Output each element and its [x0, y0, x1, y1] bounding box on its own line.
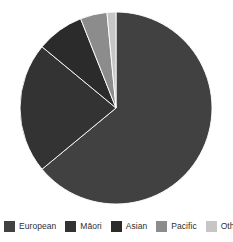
legend-item-label: Other — [221, 221, 233, 232]
legend-item-asian[interactable]: Asian — [111, 221, 148, 232]
legend-swatch-icon — [65, 221, 76, 232]
legend-item-mori[interactable]: Māori — [65, 221, 102, 232]
pie-chart-svg — [0, 0, 233, 210]
legend-swatch-icon — [111, 221, 122, 232]
legend-item-label: European — [19, 221, 56, 232]
legend-swatch-icon — [206, 221, 217, 232]
pie-slice-group — [20, 12, 212, 204]
legend-item-other[interactable]: Other — [206, 221, 233, 232]
legend-item-label: Māori — [80, 221, 102, 232]
legend-item-label: Pacific — [171, 221, 196, 232]
legend-item-european[interactable]: European — [4, 221, 56, 232]
chart-legend: EuropeanMāoriAsianPacificOther — [0, 215, 233, 237]
legend-swatch-icon — [156, 221, 167, 232]
pie-plot-area — [0, 0, 233, 210]
legend-item-label: Asian — [126, 221, 148, 232]
legend-item-pacific[interactable]: Pacific — [156, 221, 196, 232]
pie-chart-figure: EuropeanMāoriAsianPacificOther — [0, 0, 233, 242]
legend-swatch-icon — [4, 221, 15, 232]
